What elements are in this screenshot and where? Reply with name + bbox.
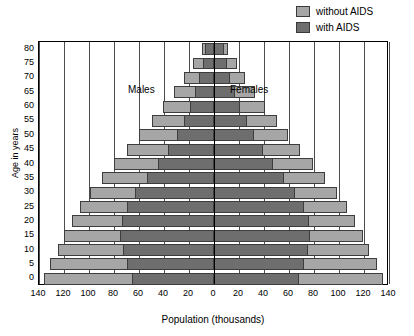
y-tick-label: 45 xyxy=(12,144,34,153)
x-tick-label: 140 xyxy=(24,289,52,298)
bar-segment xyxy=(190,101,214,113)
y-tick-label: 35 xyxy=(12,173,34,182)
bar-segment xyxy=(214,201,304,213)
bar-segment xyxy=(214,215,309,227)
legend-item-without-aids: without AIDS xyxy=(296,5,373,18)
bar-segment xyxy=(203,58,214,70)
x-tick-label: 80 xyxy=(299,289,327,298)
bar-row xyxy=(39,72,387,84)
x-tick-label: 20 xyxy=(224,289,252,298)
x-tick-label: 120 xyxy=(349,289,377,298)
bar-segment xyxy=(214,43,224,55)
x-tick-label: 100 xyxy=(74,289,102,298)
bar-segment xyxy=(168,144,214,156)
plot-area xyxy=(38,41,388,285)
bar-segment xyxy=(214,115,247,127)
legend-swatch-with-aids xyxy=(296,22,310,33)
bar-segment xyxy=(214,244,308,256)
y-tick-label: 10 xyxy=(12,245,34,254)
bar-segment xyxy=(199,72,214,84)
bar-row xyxy=(39,115,387,127)
y-tick-label: 50 xyxy=(12,130,34,139)
bar-row xyxy=(39,273,387,285)
bar-segment xyxy=(184,115,214,127)
y-tick-label: 80 xyxy=(12,44,34,53)
legend-label-with-aids: with AIDS xyxy=(316,22,359,33)
bar-row xyxy=(39,215,387,227)
bar-segment xyxy=(214,129,254,141)
bar-segment xyxy=(205,43,214,55)
bar-segment xyxy=(214,101,240,113)
population-pyramid-chart: without AIDS with AIDS Age in years Popu… xyxy=(0,0,414,336)
x-tick-label: 120 xyxy=(49,289,77,298)
bar-row xyxy=(39,101,387,113)
y-tick-label: 65 xyxy=(12,87,34,96)
bar-row xyxy=(39,144,387,156)
legend-item-with-aids: with AIDS xyxy=(296,21,373,34)
bar-row xyxy=(39,244,387,256)
annotation-males: Males xyxy=(128,84,155,95)
bar-segment xyxy=(214,258,304,270)
bar-segment xyxy=(214,187,295,199)
bar-segment xyxy=(214,172,284,184)
annotation-females: Females xyxy=(230,84,268,95)
x-axis-title: Population (thousands) xyxy=(38,314,388,325)
legend-swatch-without-aids xyxy=(296,6,310,17)
axis-zero-line xyxy=(214,42,215,284)
bar-segment xyxy=(147,172,215,184)
y-tick-label: 70 xyxy=(12,72,34,81)
bar-row xyxy=(39,43,387,55)
bar-row xyxy=(39,58,387,70)
y-tick-label: 40 xyxy=(12,159,34,168)
gridline xyxy=(389,42,390,284)
bar-segment xyxy=(132,273,215,285)
bar-row xyxy=(39,258,387,270)
x-tick-label: 20 xyxy=(174,289,202,298)
bar-segment xyxy=(135,187,214,199)
bar-segment xyxy=(214,158,273,170)
bar-segment xyxy=(120,230,214,242)
x-tick-label: 40 xyxy=(249,289,277,298)
bar-row xyxy=(39,158,387,170)
bar-segment xyxy=(214,58,227,70)
x-tick-label: 80 xyxy=(99,289,127,298)
y-tick-label: 55 xyxy=(12,115,34,124)
y-tick-label: 0 xyxy=(12,273,34,282)
y-tick-label: 30 xyxy=(12,187,34,196)
legend-label-without-aids: without AIDS xyxy=(316,6,373,17)
bar-segment xyxy=(214,273,299,285)
bar-segment xyxy=(158,158,214,170)
bar-segment xyxy=(127,258,215,270)
x-tick-label: 60 xyxy=(274,289,302,298)
chart-legend: without AIDS with AIDS xyxy=(296,5,373,34)
bar-segment xyxy=(122,215,215,227)
bar-segment xyxy=(214,72,230,84)
bar-segment xyxy=(123,244,214,256)
bar-row xyxy=(39,230,387,242)
y-tick-label: 15 xyxy=(12,230,34,239)
bar-segment xyxy=(195,86,214,98)
y-tick-label: 75 xyxy=(12,58,34,67)
plot-inner xyxy=(39,42,387,284)
x-tick-label: 60 xyxy=(124,289,152,298)
bar-segment xyxy=(127,201,215,213)
bar-segment xyxy=(214,144,263,156)
y-tick-label: 60 xyxy=(12,101,34,110)
bar-segment xyxy=(214,230,310,242)
bar-segment xyxy=(177,129,215,141)
bar-row xyxy=(39,129,387,141)
y-tick-label: 5 xyxy=(12,259,34,268)
x-tick-label: 0 xyxy=(199,289,227,298)
y-tick-label: 25 xyxy=(12,202,34,211)
bar-row xyxy=(39,86,387,98)
bar-row xyxy=(39,172,387,184)
y-tick-label: 20 xyxy=(12,216,34,225)
bar-row xyxy=(39,187,387,199)
x-tick-label: 140 xyxy=(374,289,402,298)
x-tick-label: 40 xyxy=(149,289,177,298)
x-tick-label: 100 xyxy=(324,289,352,298)
bar-row xyxy=(39,201,387,213)
